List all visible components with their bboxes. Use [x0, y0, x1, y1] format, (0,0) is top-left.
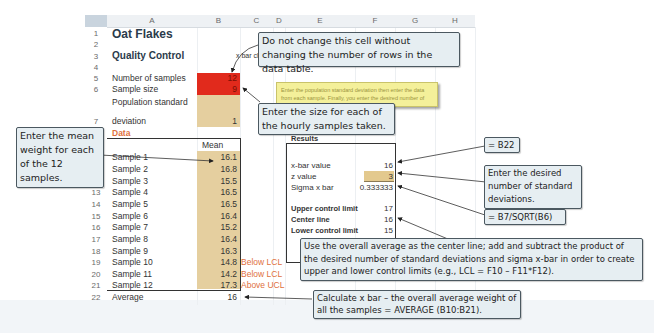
- callout-rows-warning: Do not change this cell without changing…: [258, 32, 460, 67]
- callout-b22: = B22: [484, 137, 520, 153]
- callout-sqrt: = B7/SQRT(B6): [484, 209, 566, 225]
- callout-mean-weight: Enter the mean weight for each of the 12…: [16, 127, 104, 188]
- callout-control-limits: Use the overall average as the center li…: [300, 238, 643, 281]
- callout-sample-size: Enter the size for each of the hourly sa…: [258, 103, 395, 135]
- callout-average: Calculate x bar – the overall average we…: [313, 290, 521, 319]
- callout-std-devs: Enter the desired number of standard dev…: [484, 165, 582, 209]
